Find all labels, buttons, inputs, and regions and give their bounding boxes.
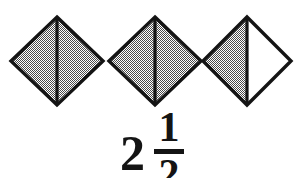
- mixed-number-label: 2 1 2: [110, 106, 230, 178]
- figure-canvas: 2 1 2: [0, 0, 295, 178]
- fraction: 1 2: [154, 108, 184, 178]
- fraction-denominator: 2: [159, 155, 180, 178]
- whole-number: 2: [120, 128, 145, 178]
- fraction-numerator: 1: [159, 108, 180, 147]
